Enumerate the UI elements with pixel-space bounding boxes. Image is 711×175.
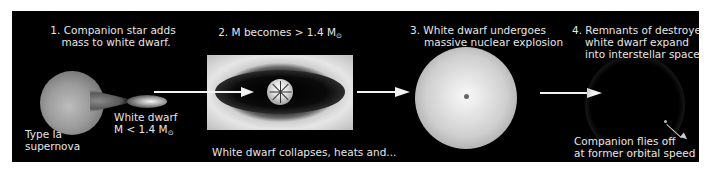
type-ia-label-line2: supernova <box>25 140 80 152</box>
type-ia-label-line1: Type Ia <box>25 128 80 140</box>
collapse-illustration <box>207 55 353 130</box>
stage3-caption-line2: massive nuclear explosion <box>410 36 563 48</box>
stage4-caption-line1: 4. Remnants of destroyed <box>572 24 699 36</box>
companion-label-line1: Companion flies off <box>574 135 695 147</box>
companion-star-remnant <box>664 120 667 123</box>
sun-symbol: ⊙ <box>336 32 342 40</box>
stage1-caption-line2: mass to white dwarf. <box>38 36 188 48</box>
type-ia-label: Type Ia supernova <box>25 128 80 152</box>
companion-label-line2: at former orbital speed <box>574 147 695 159</box>
white-dwarf-label-line1: White dwarf <box>114 111 178 123</box>
sun-symbol: ⊙ <box>168 129 174 137</box>
mass-transfer-stream <box>90 90 130 112</box>
stage4-caption: 4. Remnants of destroyed white dwarf exp… <box>572 24 699 60</box>
stage2-bottom-caption: White dwarf collapses, heats and... <box>212 146 396 158</box>
supernova-diagram-panel: 1. Companion star adds mass to white dwa… <box>12 11 699 162</box>
stage3-caption-line1: 3. White dwarf undergoes <box>410 24 563 36</box>
explosion-core <box>464 94 469 99</box>
white-dwarf-mass-label: M < 1.4 M⊙ <box>114 123 178 139</box>
white-dwarf-label: White dwarf M < 1.4 M⊙ <box>114 111 178 139</box>
arrow-2-to-3-head <box>395 87 410 97</box>
stage1-caption: 1. Companion star adds mass to white dwa… <box>38 24 188 48</box>
stage4-caption-line3: into interstellar space <box>572 48 699 60</box>
stage3-caption: 3. White dwarf undergoes massive nuclear… <box>410 24 563 48</box>
arrow-into-box-line <box>207 91 245 93</box>
collapsing-white-dwarf <box>267 79 293 105</box>
arrow-3-to-4-line <box>540 92 590 94</box>
companion-label: Companion flies off at former orbital sp… <box>574 135 695 159</box>
stage4-caption-line2: white dwarf expand <box>572 36 699 48</box>
stage2-caption: 2. M becomes > 1.4 M⊙ <box>207 26 353 42</box>
stage1-caption-line1: 1. Companion star adds <box>38 24 188 36</box>
arrow-into-box-head <box>241 87 254 97</box>
accretion-disk <box>127 95 167 108</box>
